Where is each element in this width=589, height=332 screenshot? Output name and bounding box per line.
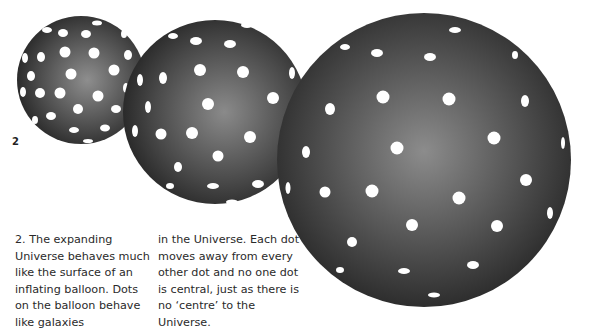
balloon-large	[277, 13, 571, 307]
caption-column-1: 2. The expanding Universe behaves much l…	[15, 232, 155, 332]
figure-number: 2	[12, 136, 19, 147]
caption-column-2: in the Universe. Each dot moves away fro…	[158, 232, 308, 332]
